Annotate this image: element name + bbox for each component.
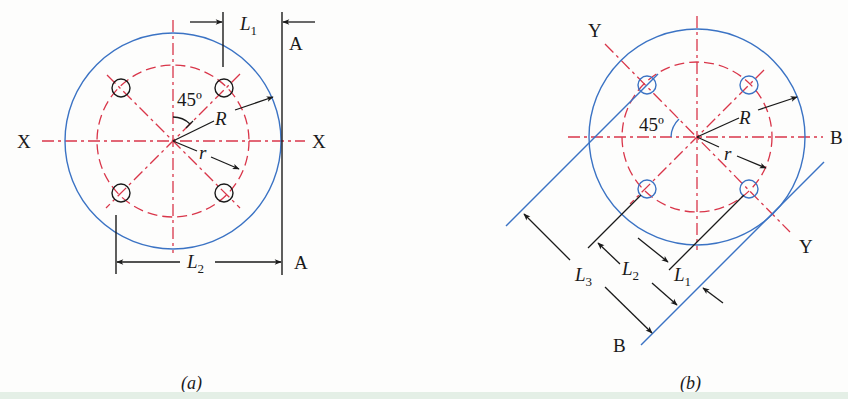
l1-arrow-outer bbox=[638, 238, 668, 262]
radius-small-r-arrow bbox=[211, 157, 239, 169]
radius-small-r-arrow-b bbox=[737, 156, 766, 168]
l2-arrow-lower bbox=[652, 283, 677, 305]
angle-label-a: 45º bbox=[177, 89, 202, 110]
radius-small-r-leader bbox=[173, 141, 197, 151]
radius-small-r-leader-b bbox=[697, 137, 719, 147]
l1-arrow-inner bbox=[703, 288, 723, 303]
panel-b-centerlines bbox=[568, 16, 823, 250]
outer-radius-label-a: R bbox=[214, 108, 227, 129]
dimension-label-l1-b: L1 bbox=[673, 264, 691, 289]
angle-label-b: 45º bbox=[639, 114, 664, 135]
reference-line-b bbox=[641, 162, 824, 345]
l3-extension-line bbox=[506, 74, 658, 226]
reference-label-a-top: A bbox=[289, 33, 303, 54]
bolt-hole bbox=[112, 79, 130, 97]
l3-arrow-lower bbox=[605, 287, 652, 333]
angle-arc-b bbox=[671, 119, 679, 137]
y-axis-label-top: Y bbox=[588, 20, 602, 41]
bolt-hole bbox=[215, 79, 233, 97]
dimension-label-l2-a: L2 bbox=[186, 251, 204, 276]
y-axis-label-bottom: Y bbox=[799, 236, 813, 257]
panel-a-centerlines bbox=[42, 20, 305, 253]
dimension-label-l1-a: L1 bbox=[239, 13, 257, 38]
angle-arc-a bbox=[173, 117, 190, 124]
l2-extension-line-b bbox=[588, 195, 641, 248]
x-axis-label-left: X bbox=[17, 131, 31, 152]
bolt-circle-radius-label-a: r bbox=[199, 142, 207, 163]
panel-b-caption: (b) bbox=[680, 373, 701, 394]
radius-r-leader-b bbox=[697, 118, 739, 137]
panel-a: X X A A 45º R r L1 L2 (a) bbox=[17, 12, 326, 394]
reference-label-b-bottom: B bbox=[613, 335, 626, 356]
l2-arrow-upper bbox=[598, 243, 620, 264]
dimension-label-l3-b: L3 bbox=[574, 264, 592, 289]
page-bottom-strip bbox=[0, 392, 848, 399]
outer-radius-label-b: R bbox=[738, 107, 751, 128]
bolt-pattern-figure: X X A A 45º R r L1 L2 (a) bbox=[0, 0, 848, 399]
bolt-hole bbox=[215, 184, 233, 202]
radius-r-leader bbox=[173, 121, 214, 141]
l1-extension-line-b bbox=[669, 195, 744, 270]
panel-b: Y Y B B 45º R r L3 L2 L1 (b) bbox=[506, 16, 843, 394]
reference-label-b-right: B bbox=[830, 127, 843, 148]
x-axis-label-right: X bbox=[312, 131, 326, 152]
bolt-hole bbox=[740, 76, 758, 94]
bolt-circle-radius-label-b: r bbox=[724, 143, 732, 164]
l3-arrow-upper bbox=[524, 214, 570, 260]
panel-a-caption: (a) bbox=[181, 373, 202, 394]
dimension-label-l2-b: L2 bbox=[621, 258, 639, 283]
radius-big-r-arrow bbox=[235, 97, 273, 110]
reference-label-a-bottom: A bbox=[294, 252, 308, 273]
bolt-hole bbox=[740, 180, 758, 198]
